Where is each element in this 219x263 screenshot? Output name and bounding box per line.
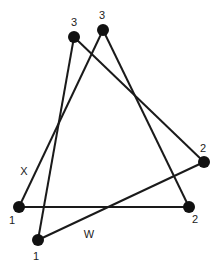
node-D	[183, 201, 195, 213]
edge-F-C	[38, 162, 204, 240]
node-B	[97, 24, 109, 36]
edge-B-D	[103, 30, 189, 207]
graph-diagram: 332211XW	[0, 0, 219, 263]
edge-A-C	[74, 37, 204, 162]
node-label-B: 3	[99, 9, 105, 21]
edge-F-A	[38, 37, 74, 240]
node-label-E: 1	[9, 214, 15, 226]
annotation-x: X	[20, 165, 28, 177]
node-F	[32, 234, 44, 246]
edge-E-B	[19, 30, 103, 207]
node-A	[68, 31, 80, 43]
node-E	[13, 201, 25, 213]
node-label-C: 2	[200, 142, 206, 154]
node-label-A: 3	[71, 16, 77, 28]
annotation-w: W	[84, 228, 95, 240]
node-label-D: 2	[192, 213, 198, 225]
node-C	[198, 156, 210, 168]
node-label-F: 1	[33, 250, 39, 262]
edges	[19, 30, 204, 240]
